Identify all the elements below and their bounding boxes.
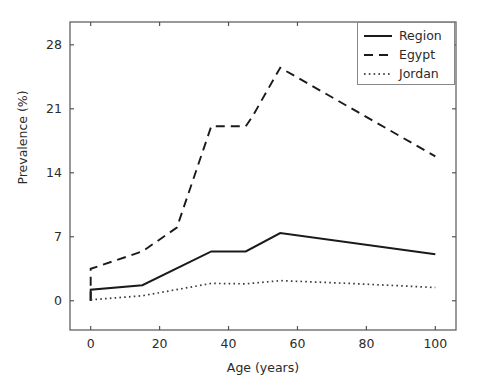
y-tick-label: 14 bbox=[36, 165, 62, 180]
x-tick-label: 40 bbox=[215, 336, 243, 351]
legend-item-jordan: Jordan bbox=[358, 64, 454, 83]
series-line-jordan bbox=[91, 281, 436, 300]
x-tick-label: 80 bbox=[352, 336, 380, 351]
y-tick-label: 21 bbox=[36, 101, 62, 116]
series-line-egypt bbox=[91, 68, 436, 301]
x-axis-label: Age (years) bbox=[70, 360, 456, 375]
data-series-group bbox=[91, 68, 436, 301]
y-axis-label: Prevalence (%) bbox=[15, 83, 30, 193]
chart-legend: RegionEgyptJordan bbox=[357, 22, 455, 85]
legend-item-region: Region bbox=[358, 26, 454, 45]
legend-swatch-dashed bbox=[363, 50, 393, 60]
series-line-region bbox=[91, 233, 436, 301]
legend-label: Egypt bbox=[399, 47, 435, 62]
legend-swatch-dotted bbox=[363, 69, 393, 79]
chart-figure: Prevalence (%) Age (years) 0204060801000… bbox=[0, 0, 489, 386]
x-tick-label: 20 bbox=[146, 336, 174, 351]
x-tick-label: 100 bbox=[421, 336, 449, 351]
y-tick-label: 28 bbox=[36, 37, 62, 52]
x-tick-label: 0 bbox=[77, 336, 105, 351]
legend-label: Jordan bbox=[399, 66, 439, 81]
legend-swatch-solid bbox=[363, 31, 393, 41]
legend-item-egypt: Egypt bbox=[358, 45, 454, 64]
y-tick-label: 0 bbox=[36, 293, 62, 308]
y-tick-label: 7 bbox=[36, 229, 62, 244]
legend-label: Region bbox=[399, 28, 442, 43]
x-tick-label: 60 bbox=[283, 336, 311, 351]
